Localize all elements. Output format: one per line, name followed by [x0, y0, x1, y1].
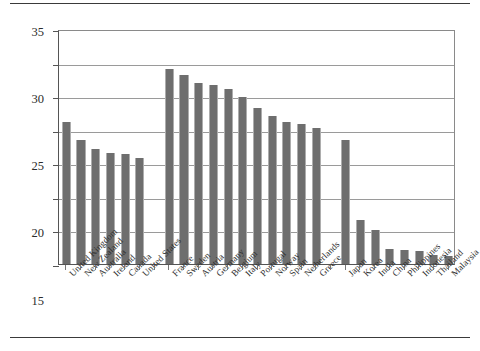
y-axis-tick: 0 — [53, 266, 59, 267]
y-axis-tick-label: 25 — [32, 160, 45, 173]
bar — [194, 83, 203, 264]
x-axis-tick — [389, 265, 390, 270]
x-axis-tick — [345, 265, 346, 270]
plot-area: 05101520253035 — [58, 30, 455, 265]
bar — [268, 116, 277, 264]
bar — [282, 122, 291, 264]
y-axis-tick-label: 15 — [32, 294, 45, 307]
bar — [179, 75, 188, 264]
bar — [135, 158, 144, 264]
x-axis-tick — [330, 265, 331, 270]
y-axis-tick: 15 — [53, 165, 59, 166]
y-axis-tick: 20 — [53, 132, 59, 133]
bar — [253, 108, 262, 264]
y-axis-tick: 25 — [53, 98, 59, 99]
y-axis-tick-label: 30 — [32, 93, 45, 106]
x-axis-tick — [301, 265, 302, 270]
x-axis-tick — [242, 265, 243, 270]
y-axis-tick: 10 — [53, 199, 59, 200]
x-axis-tick — [271, 265, 272, 270]
x-axis-tick — [65, 265, 66, 270]
bar-chart-figure: 05101520253035 United KingdomNew Zealand… — [0, 0, 480, 351]
x-axis-tick — [139, 265, 140, 270]
x-axis-tick — [80, 265, 81, 270]
x-axis-tick — [448, 265, 449, 270]
gridline — [59, 65, 454, 66]
x-axis-tick — [227, 265, 228, 270]
bar — [341, 140, 350, 264]
x-axis-tick — [418, 265, 419, 270]
bar — [76, 140, 85, 264]
x-axis-tick — [183, 265, 184, 270]
y-axis-tick: 5 — [53, 232, 59, 233]
bar — [165, 69, 174, 264]
y-axis-tick: 35 — [53, 31, 59, 32]
bar — [297, 124, 306, 264]
gridline — [59, 98, 454, 99]
x-axis-tick — [95, 265, 96, 270]
bar — [209, 85, 218, 264]
x-axis-tick — [359, 265, 360, 270]
bar — [62, 122, 71, 264]
y-axis-tick-label: 35 — [32, 26, 45, 39]
x-axis-tick — [109, 265, 110, 270]
x-axis-tick — [198, 265, 199, 270]
bar — [224, 89, 233, 264]
y-axis-tick: 30 — [53, 65, 59, 66]
y-axis-tick-label: 20 — [32, 227, 45, 240]
x-axis-tick — [374, 265, 375, 270]
x-axis-tick — [404, 265, 405, 270]
x-axis-tick — [212, 265, 213, 270]
x-axis-tick — [124, 265, 125, 270]
bar — [312, 128, 321, 264]
x-axis-tick — [168, 265, 169, 270]
x-axis-tick — [433, 265, 434, 270]
x-axis-tick — [257, 265, 258, 270]
x-axis-tick — [154, 265, 155, 270]
x-axis-tick — [286, 265, 287, 270]
x-axis-tick — [315, 265, 316, 270]
bar — [238, 97, 247, 264]
